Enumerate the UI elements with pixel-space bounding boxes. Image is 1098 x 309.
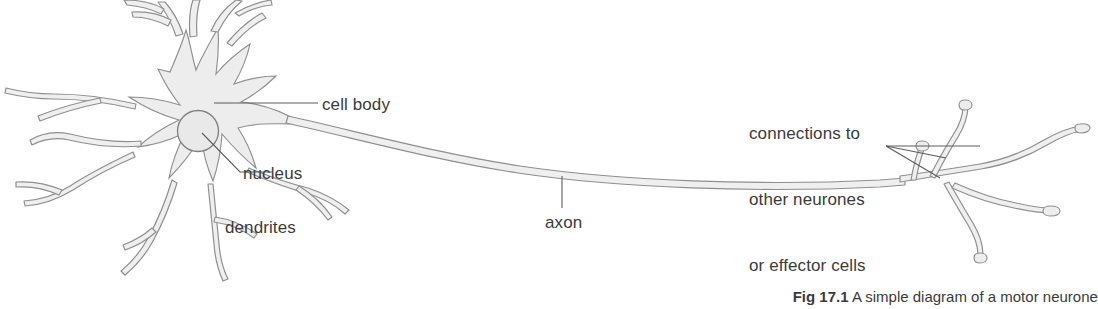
cell-body-shape	[129, 28, 303, 181]
figure-caption-body: A simple diagram of a motor neurone	[852, 288, 1098, 305]
label-nucleus: nucleus	[243, 163, 302, 184]
figure-caption: Fig 17.1 A simple diagram of a motor neu…	[776, 271, 1098, 309]
soma-group	[129, 28, 303, 181]
nucleus-shape	[178, 111, 219, 152]
label-dendrites: dendrites	[225, 217, 296, 238]
synaptic-knob	[974, 253, 987, 263]
label-connections-line-2: other neurones	[749, 189, 866, 211]
dendrite-branch	[189, 0, 200, 37]
terminal-branch	[952, 183, 1051, 213]
dendrite-branch	[211, 0, 242, 32]
synaptic-knob	[1043, 206, 1060, 216]
label-axon: axon	[545, 212, 582, 233]
dendrite-branch	[30, 133, 141, 147]
label-connections-line-1: connections to	[749, 123, 866, 145]
label-cell-body: cell body	[322, 94, 390, 115]
dendrite-branch	[132, 12, 171, 26]
dendrite-branch	[24, 152, 135, 206]
synaptic-knob	[1075, 124, 1090, 133]
dendrite-branch	[16, 182, 62, 195]
dendrite-branch	[121, 180, 177, 275]
dendrite-branch	[227, 13, 266, 46]
dendrites-group	[5, 0, 349, 281]
figure-caption-number: Fig 17.1	[793, 288, 849, 305]
axon-terminals-group	[900, 100, 1090, 263]
dendrite-branch	[38, 98, 101, 121]
synaptic-knob	[959, 100, 972, 110]
